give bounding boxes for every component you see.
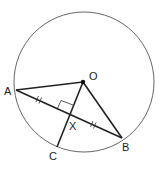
label-a: A (4, 85, 12, 97)
label-o: O (89, 70, 98, 82)
segment-oc (57, 82, 83, 147)
segment-oa (16, 82, 83, 90)
label-x: X (69, 120, 77, 132)
geometry-diagram: O A B C X (0, 0, 160, 169)
center-point-o (81, 80, 85, 84)
label-b: B (122, 141, 129, 153)
right-angle-mark (57, 101, 73, 110)
label-c: C (49, 150, 57, 162)
